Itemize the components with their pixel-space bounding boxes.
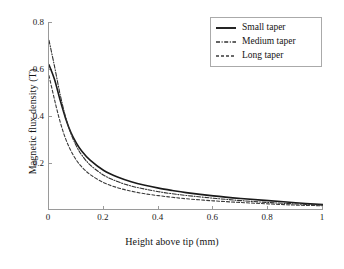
legend-line-dashdot-icon [215, 37, 237, 47]
x-tick-label: 1 [320, 213, 325, 222]
curve-long-taper [49, 76, 323, 206]
x-tick-mark [322, 206, 323, 210]
legend-line-dashed-icon [215, 51, 237, 61]
x-tick-label: 0.6 [207, 213, 218, 222]
legend-item-medium-taper[interactable]: Medium taper [211, 35, 321, 49]
x-tick-mark [103, 206, 104, 210]
chart-legend: Small taper Medium taper Long taper [210, 17, 322, 67]
x-tick-mark [48, 206, 49, 210]
chart-figure: Magnetic flux density (T) 0.20.40.60.8 0… [0, 0, 344, 269]
x-tick-mark [267, 206, 268, 210]
y-tick-label: 0.8 [0, 18, 49, 27]
x-tick-label: 0.8 [262, 213, 273, 222]
legend-label: Small taper [242, 23, 286, 33]
legend-label: Medium taper [242, 37, 296, 47]
legend-item-long-taper[interactable]: Long taper [211, 49, 321, 63]
x-tick-mark [158, 206, 159, 210]
x-tick-label: 0.2 [97, 213, 108, 222]
x-axis-title: Height above tip (mm) [0, 236, 344, 247]
y-axis-title: Magnetic flux density (T) [27, 28, 38, 216]
y-tick-label: 0.6 [0, 65, 49, 74]
legend-item-small-taper[interactable]: Small taper [211, 21, 321, 35]
y-tick-label: 0.4 [0, 112, 49, 121]
x-tick-mark [212, 206, 213, 210]
curve-small-taper [49, 65, 323, 205]
x-tick-label: 0 [46, 213, 51, 222]
legend-label: Long taper [242, 51, 283, 61]
y-tick-label: 0.2 [0, 159, 49, 168]
x-tick-label: 0.4 [152, 213, 163, 222]
legend-line-solid-icon [215, 23, 237, 33]
